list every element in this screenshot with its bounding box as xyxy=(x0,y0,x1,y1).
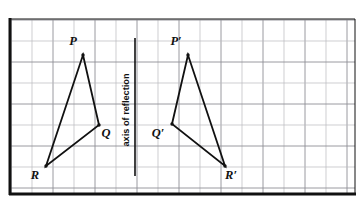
vertex-label-p: P xyxy=(69,34,77,48)
figure-background xyxy=(0,0,363,209)
vertex-dot-p-prime xyxy=(186,53,189,56)
vertex-dot-p xyxy=(81,53,84,56)
vertex-label-r-prime: R′ xyxy=(224,168,237,182)
axis-of-reflection-label: axis of reflection xyxy=(121,73,131,146)
vertex-label-p-prime: P′ xyxy=(170,34,181,48)
vertex-label-q-prime: Q′ xyxy=(152,126,165,140)
reflection-figure: axis of reflection PQRP′Q′R′ xyxy=(0,0,363,209)
vertex-dot-q-prime xyxy=(170,122,173,125)
vertex-dot-q xyxy=(97,123,100,126)
vertex-label-r: R xyxy=(30,168,39,182)
vertex-label-q: Q xyxy=(101,126,110,140)
vertex-dot-r xyxy=(44,164,47,167)
